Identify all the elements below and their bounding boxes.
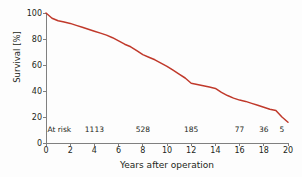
survival-curve-line (46, 13, 288, 122)
axis-spines (46, 13, 288, 143)
survival-curve-figure: Survival [%] Years after operation 02040… (0, 0, 302, 177)
plot-area (0, 0, 302, 177)
